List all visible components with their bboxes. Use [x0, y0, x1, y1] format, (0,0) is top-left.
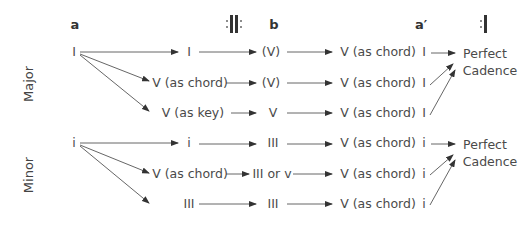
major-row2-col1: V (as chord) — [152, 77, 228, 90]
major-row3-col2: V — [269, 107, 278, 120]
minor-outcome-line1: Perfect — [463, 139, 507, 152]
major-row3-col1: V (as key) — [162, 107, 224, 120]
minor-outcome-line2: Cadence — [463, 156, 518, 169]
major-row1-col1: I — [187, 46, 191, 59]
minor-row1-col2: III — [267, 137, 278, 150]
minor-row2-col4: i — [422, 168, 425, 181]
major-outcome-line2: Cadence — [463, 65, 518, 78]
minor-label: Minor — [22, 157, 35, 193]
minor-row2-col1: V (as chord) — [152, 168, 228, 181]
minor-row2-col3: V (as chord) — [340, 168, 416, 181]
major-row2-col3: V (as chord) — [340, 77, 416, 90]
major-row1-col3: V (as chord) — [340, 46, 416, 59]
minor-row3-col2: III — [267, 198, 278, 211]
section-a-prime-label: a′ — [415, 18, 427, 31]
major-row2-col4: I — [422, 77, 426, 90]
start-repeat-sign-icon — [226, 15, 242, 33]
major-outcome-line1: Perfect — [463, 48, 507, 61]
minor-row3-col4: i — [422, 198, 425, 211]
major-start-chord: I — [72, 46, 76, 59]
minor-row1-col1: i — [187, 137, 190, 150]
major-row1-col2: (V) — [262, 46, 280, 59]
minor-start-chord: i — [72, 137, 75, 150]
minor-row3-col1: III — [183, 198, 194, 211]
end-repeat-sign-icon — [480, 15, 490, 33]
section-a-label: a — [71, 18, 80, 31]
major-row1-col4: I — [422, 46, 426, 59]
minor-row2-col2: III or v — [252, 168, 291, 181]
minor-row3-col3: V (as chord) — [340, 198, 416, 211]
minor-row1-col3: V (as chord) — [340, 137, 416, 150]
minor-row1-col4: i — [422, 137, 425, 150]
major-row2-col2: (V) — [262, 77, 280, 90]
major-label: Major — [22, 66, 35, 102]
arrows-layer — [0, 0, 526, 226]
section-b-label: b — [269, 18, 278, 31]
major-row3-col3: V (as chord) — [340, 107, 416, 120]
major-row3-col4: I — [422, 107, 426, 120]
